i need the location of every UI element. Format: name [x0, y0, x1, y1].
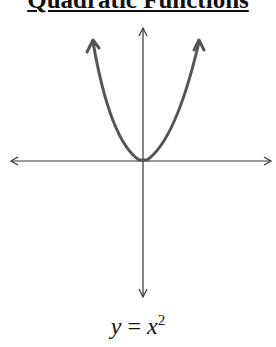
parabola-graph [0, 0, 276, 347]
y-axis [139, 28, 147, 297]
equation-label: y = x2 [0, 312, 276, 340]
parabola-curve [87, 40, 204, 160]
